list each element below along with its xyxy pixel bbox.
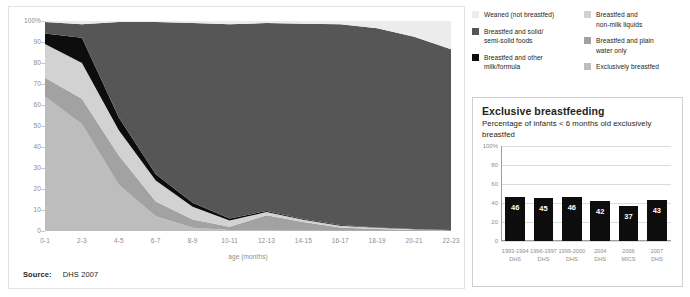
area-x-tick-label: 16-17 xyxy=(332,238,349,245)
bar-x-tick-label: 2007DHS xyxy=(651,247,663,264)
legend-item-label: Breastfed and solid/semi-solid foods xyxy=(484,27,543,46)
bar-y-tick-label: 40 xyxy=(491,200,498,206)
bar-x-tick-label: 1999-2000DHS xyxy=(558,247,585,264)
area-y-tick-label: 100% xyxy=(24,18,41,25)
bar-y-tick-label: 80 xyxy=(491,162,498,168)
legend-swatch xyxy=(472,11,479,18)
bar-column: 45 xyxy=(534,198,554,241)
bar-gridline xyxy=(501,165,671,166)
bar-y-tick-label: 60 xyxy=(491,181,498,187)
bar-y-tick-label: 100% xyxy=(483,143,498,149)
bar-gridline xyxy=(501,203,671,204)
area-y-tick-label: 10 xyxy=(34,207,41,214)
area-y-tick-label: 30 xyxy=(34,165,41,172)
legend-column-left: Weaned (not breastfed)Breastfed and soli… xyxy=(472,10,580,79)
area-x-tick-label: 18-19 xyxy=(369,238,386,245)
chart-legend: Weaned (not breastfed)Breastfed and soli… xyxy=(472,10,684,82)
legend-column-right: Breastfed andnon-milk liquidsBreastfed a… xyxy=(584,10,684,79)
legend-item-label: Breastfed and othermilk/formula xyxy=(484,53,543,72)
bar-chart-subtitle: Percentage of infants < 6 months old exc… xyxy=(482,119,678,140)
area-plot: 0102030405060708090100% 0-12-34-56-78-91… xyxy=(45,21,451,231)
bar-gridline xyxy=(501,146,671,147)
bar-x-axis-line xyxy=(501,240,671,241)
area-x-tick-label: 12-13 xyxy=(258,238,275,245)
bar-column: 37 xyxy=(619,206,639,241)
bar-column: 42 xyxy=(590,201,610,241)
area-x-tick-label: 10-11 xyxy=(221,238,238,245)
source-value: DHS 2007 xyxy=(63,270,98,279)
bar-value-label: 43 xyxy=(653,207,661,215)
bar-value-label: 46 xyxy=(568,204,576,212)
legend-swatch xyxy=(584,63,591,70)
area-x-tick-label: 14-15 xyxy=(295,238,312,245)
bar-column: 46 xyxy=(505,197,525,241)
bar-value-label: 46 xyxy=(511,204,519,212)
area-x-tick-label: 6-7 xyxy=(151,238,161,245)
legend-swatch xyxy=(584,11,591,18)
area-x-tick-label: 20-21 xyxy=(406,238,423,245)
area-y-tick-label: 60 xyxy=(34,102,41,109)
area-y-tick-label: 20 xyxy=(34,186,41,193)
area-y-tick-label: 90 xyxy=(34,39,41,46)
bar-x-tick-label: 2006MICS xyxy=(622,247,636,264)
bar-column: 43 xyxy=(647,200,667,241)
bar-plot: 020406080100% 464546423743 1993-1994DHS1… xyxy=(501,146,671,241)
bar-x-tick-label: 2004DHS xyxy=(594,247,606,264)
bar-value-label: 45 xyxy=(539,205,547,213)
legend-item: Weaned (not breastfed) xyxy=(472,10,580,20)
legend-item-label: Weaned (not breastfed) xyxy=(484,10,554,20)
bar-gridline xyxy=(501,184,671,185)
area-x-tick-label: 22-23 xyxy=(442,238,459,245)
area-x-tick-label: 8-9 xyxy=(188,238,198,245)
area-y-tick-label: 70 xyxy=(34,81,41,88)
legend-item: Breastfed and othermilk/formula xyxy=(472,53,580,72)
legend-item-label: Breastfed andnon-milk liquids xyxy=(596,10,642,29)
area-series-svg xyxy=(45,21,451,231)
area-chart-card: 0102030405060708090100% 0-12-34-56-78-91… xyxy=(8,6,465,289)
source-row: Source: DHS 2007 xyxy=(23,270,98,279)
bar-chart-title: Exclusive breastfeeding xyxy=(482,105,605,117)
legend-item-label: Exclusively breastfed xyxy=(596,62,659,72)
area-y-tick-label: 50 xyxy=(34,123,41,130)
bar-y-axis-line xyxy=(501,146,502,241)
legend-item: Breastfed and solid/semi-solid foods xyxy=(472,27,580,46)
bar-value-label: 42 xyxy=(596,208,604,216)
bar-x-tick-label: 1993-1994DHS xyxy=(502,247,529,264)
bar-value-label: 37 xyxy=(624,213,632,221)
legend-swatch xyxy=(472,54,479,61)
figure-root: 0102030405060708090100% 0-12-34-56-78-91… xyxy=(0,0,690,297)
legend-swatch xyxy=(472,28,479,35)
area-y-tick-label: 40 xyxy=(34,144,41,151)
area-x-tick-label: 2-3 xyxy=(77,238,87,245)
area-x-tick-label: 0-1 xyxy=(40,238,50,245)
legend-item: Breastfed and plainwater only xyxy=(584,36,684,55)
source-label: Source: xyxy=(23,270,52,279)
bar-column: 46 xyxy=(562,197,582,241)
legend-item-label: Breastfed and plainwater only xyxy=(596,36,654,55)
bar-y-tick-label: 0 xyxy=(495,238,498,244)
area-x-tick-label: 4-5 xyxy=(114,238,124,245)
area-y-gridline xyxy=(41,231,45,232)
area-x-axis-title: age (months) xyxy=(45,253,451,260)
legend-item: Breastfed andnon-milk liquids xyxy=(584,10,684,29)
legend-swatch xyxy=(584,37,591,44)
bar-gridline xyxy=(501,222,671,223)
legend-item: Exclusively breastfed xyxy=(584,62,684,72)
area-y-tick-label: 80 xyxy=(34,60,41,67)
exclusive-breastfeeding-card: Exclusive breastfeeding Percentage of in… xyxy=(472,97,683,287)
bar-gridline xyxy=(501,241,671,242)
bar-x-tick-label: 1996-1997DHS xyxy=(530,247,557,264)
bar-y-tick-label: 20 xyxy=(491,219,498,225)
